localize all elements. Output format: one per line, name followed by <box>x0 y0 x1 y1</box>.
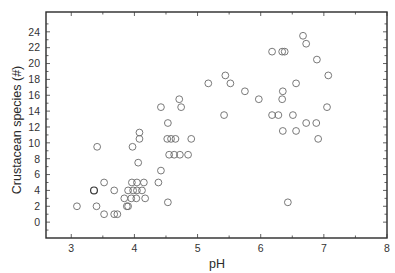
x-tick-label: 6 <box>258 242 264 254</box>
y-tick-label: 22 <box>28 41 40 53</box>
data-point-marker <box>178 104 185 111</box>
y-tick-label: 10 <box>28 137 40 149</box>
data-point-marker <box>133 195 140 202</box>
data-point-marker <box>222 72 229 79</box>
y-tick-label: 18 <box>28 73 40 85</box>
data-point-marker <box>242 88 249 95</box>
data-point-marker <box>293 128 300 135</box>
data-point-marker <box>227 80 234 87</box>
y-tick-label: 6 <box>34 168 40 180</box>
data-point-marker <box>158 104 165 111</box>
data-point-marker <box>172 135 179 142</box>
y-tick-label: 12 <box>28 121 40 133</box>
data-point-marker <box>284 199 291 206</box>
data-point-marker <box>279 96 286 103</box>
x-tick-label: 7 <box>321 242 327 254</box>
data-point-marker <box>221 112 228 119</box>
scatter-chart: 345678 024681012141618202224 pH Crustace… <box>0 0 395 273</box>
x-tick-label: 3 <box>68 242 74 254</box>
data-point-marker <box>135 159 142 166</box>
data-point-marker <box>140 179 147 186</box>
data-point-marker <box>188 135 195 142</box>
plot-frame <box>46 12 387 238</box>
data-point-marker <box>155 179 162 186</box>
data-point-marker <box>94 143 101 150</box>
data-point-marker <box>279 88 286 95</box>
y-tick-label: 8 <box>34 153 40 165</box>
data-point-marker <box>129 143 136 150</box>
data-point-marker <box>121 195 128 202</box>
data-point-marker <box>255 96 262 103</box>
data-point-marker <box>139 187 146 194</box>
data-point-marker <box>134 179 141 186</box>
y-tick-label: 4 <box>34 184 40 196</box>
data-point-marker <box>300 32 307 39</box>
data-point-marker <box>290 112 297 119</box>
data-point-marker <box>164 199 171 206</box>
y-tick-label: 16 <box>28 89 40 101</box>
data-point-marker <box>185 151 192 158</box>
y-tick-label: 24 <box>28 26 40 38</box>
data-point-marker <box>101 211 108 218</box>
data-point-marker <box>136 135 143 142</box>
x-axis-label: pH <box>209 257 225 271</box>
y-axis-label: Crustacean species (#) <box>10 66 24 195</box>
y-axis: 024681012141618202224 <box>28 24 387 230</box>
data-point-marker <box>164 120 171 127</box>
data-point-marker <box>293 80 300 87</box>
data-point-marker <box>136 129 143 136</box>
data-point-marker <box>303 120 310 127</box>
y-tick-label: 14 <box>28 105 40 117</box>
data-point-marker <box>324 104 331 111</box>
data-point-marker <box>74 203 81 210</box>
y-tick-label: 2 <box>34 200 40 212</box>
data-point-marker <box>205 80 212 87</box>
data-point-marker <box>142 195 149 202</box>
data-point-marker <box>111 187 118 194</box>
data-point-marker <box>101 179 108 186</box>
data-point-marker <box>275 112 282 119</box>
x-tick-label: 4 <box>131 242 137 254</box>
data-points <box>74 32 332 217</box>
data-point-marker <box>303 40 310 47</box>
y-tick-label: 20 <box>28 57 40 69</box>
x-tick-label: 8 <box>384 242 390 254</box>
data-point-marker <box>325 72 332 79</box>
data-point-marker <box>314 56 321 63</box>
data-point-marker <box>315 135 322 142</box>
data-point-marker <box>269 112 276 119</box>
data-point-marker <box>91 187 98 194</box>
data-point-marker <box>158 167 165 174</box>
data-point-marker <box>313 120 320 127</box>
x-tick-label: 5 <box>195 242 201 254</box>
y-tick-label: 0 <box>34 216 40 228</box>
data-point-marker <box>93 203 100 210</box>
data-point-marker <box>279 128 286 135</box>
data-point-marker <box>176 96 183 103</box>
data-point-marker <box>269 48 276 55</box>
